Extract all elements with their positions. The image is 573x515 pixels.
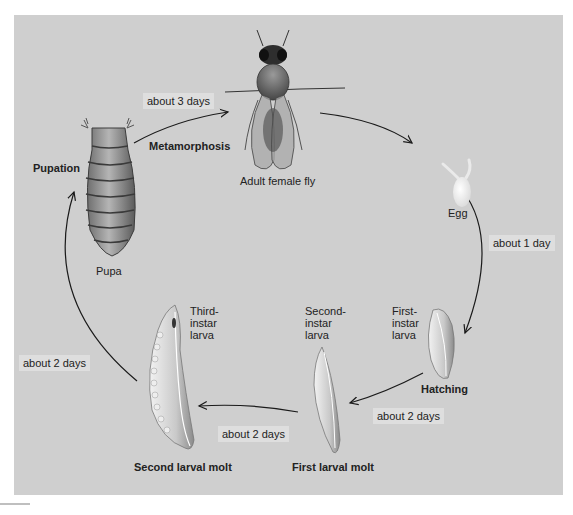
duration-second-to-third: about 2 days (218, 426, 289, 442)
second-instar-larva-illustration (314, 347, 340, 453)
stage-third-instar-larva: Third- instar larva (190, 305, 219, 341)
stage-pupa: Pupa (96, 265, 122, 277)
third-instar-larva-illustration (150, 305, 194, 449)
pupa-illustration (81, 118, 135, 256)
duration-egg-to-larva: about 1 day (489, 235, 555, 251)
stage-egg: Egg (448, 207, 468, 219)
arrow-pupa-to-adult (134, 112, 228, 143)
event-hatching: Hatching (421, 383, 468, 395)
event-pupation: Pupation (33, 162, 80, 174)
stage-adult-female-fly: Adult female fly (240, 175, 315, 187)
arrow-second-to-third-instar (199, 405, 298, 412)
adult-fly-illustration (225, 30, 345, 169)
arrow-first-to-second-instar (350, 373, 423, 403)
event-second-larval-molt: Second larval molt (134, 461, 232, 473)
event-first-larval-molt: First larval molt (292, 461, 374, 473)
duration-first-to-second: about 2 days (373, 408, 444, 424)
egg-illustration (443, 160, 471, 207)
event-metamorphosis: Metamorphosis (149, 140, 230, 152)
stage-second-instar-larva: Second- instar larva (305, 305, 346, 341)
first-instar-larva-illustration (428, 309, 454, 379)
caption-rule (0, 503, 30, 505)
duration-third-to-pupa: about 2 days (19, 355, 90, 371)
duration-pupa-to-adult: about 3 days (143, 93, 214, 109)
stage-first-instar-larva: First- instar larva (392, 305, 419, 341)
arrow-adult-to-egg (320, 113, 412, 143)
